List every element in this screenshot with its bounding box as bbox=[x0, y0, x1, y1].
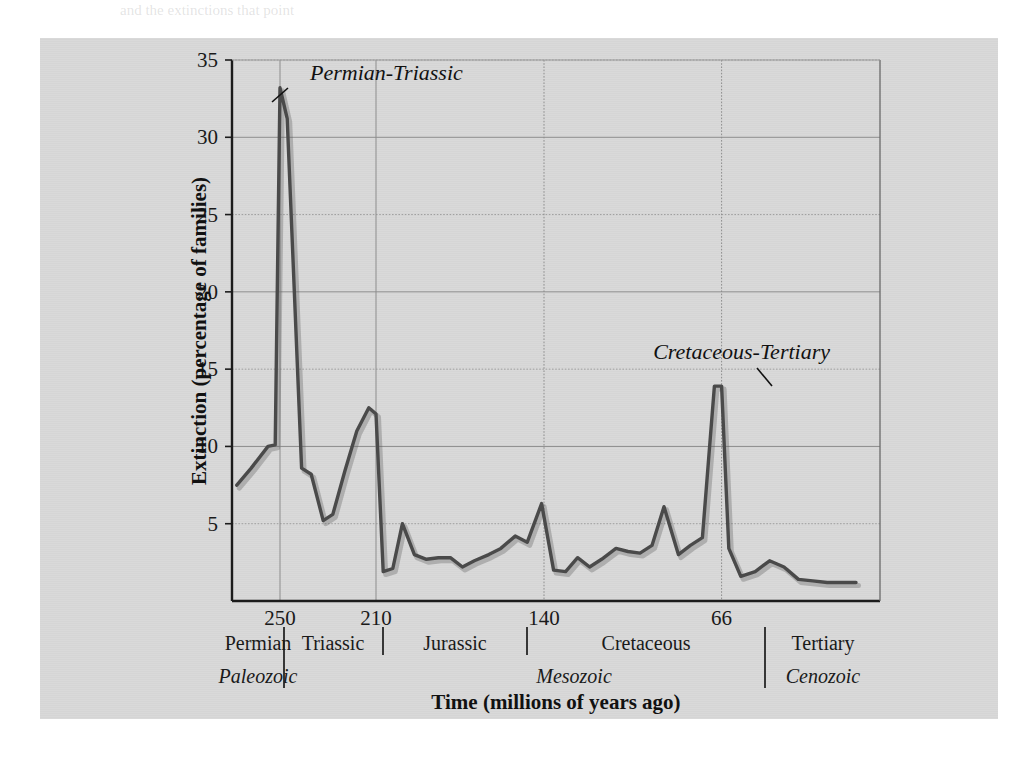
x-gridlines bbox=[280, 60, 722, 601]
period-label: Jurassic bbox=[423, 632, 486, 654]
era-label: Paleozoic bbox=[218, 665, 298, 687]
x-tick-label: 66 bbox=[711, 606, 732, 630]
x-tick-label: 140 bbox=[528, 606, 560, 630]
era-label: Cenozoic bbox=[786, 665, 861, 687]
period-label: Triassic bbox=[302, 632, 365, 654]
x-tick-label: 250 bbox=[264, 606, 296, 630]
y-gridlines bbox=[232, 60, 880, 524]
period-labels-row: PermianTriassicJurassicCretaceousTertiar… bbox=[225, 632, 855, 655]
extinction-line-chart: 5101520253035 25021014066 Extinction (pe… bbox=[0, 0, 1030, 764]
period-label: Tertiary bbox=[791, 632, 854, 655]
x-tick-label: 210 bbox=[360, 606, 392, 630]
period-label: Permian bbox=[225, 632, 292, 654]
annotation-label: Cretaceous-Tertiary bbox=[653, 339, 830, 364]
period-label: Cretaceous bbox=[602, 632, 691, 654]
page-canvas: and the extinctions that point 510 bbox=[0, 0, 1030, 764]
y-tick-label: 30 bbox=[197, 125, 218, 149]
y-tick-label: 5 bbox=[208, 512, 219, 536]
era-label: Mesozoic bbox=[535, 665, 612, 687]
y-tick-label: 35 bbox=[197, 48, 218, 72]
y-axis-title: Extinction (percentage of families) bbox=[187, 177, 211, 485]
annotation-leader-line bbox=[757, 368, 772, 386]
chart-annotations: Permian-TriassicCretaceous-Tertiary bbox=[272, 60, 830, 386]
annotation-label: Permian-Triassic bbox=[309, 60, 463, 85]
x-axis-tick-labels: 25021014066 bbox=[264, 606, 732, 630]
era-labels-row: PaleozoicMesozoicCenozoic bbox=[218, 665, 861, 687]
x-axis-title: Time (millions of years ago) bbox=[431, 690, 680, 714]
